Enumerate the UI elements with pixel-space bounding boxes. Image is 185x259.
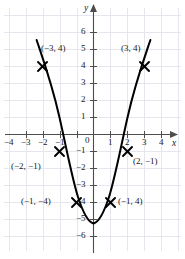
point-label-1-neg4: (−1, 4) bbox=[118, 197, 143, 206]
y-tick-label-5: 5 bbox=[81, 44, 86, 53]
point-label-neg2-neg1: (−2, −1) bbox=[11, 162, 41, 171]
y-tick-label-4: 4 bbox=[81, 61, 86, 70]
x-tick-label-1: 1 bbox=[108, 138, 113, 147]
point-label-2-neg1: (2, −1) bbox=[133, 157, 158, 166]
x-tick-label--4: −4 bbox=[4, 138, 14, 147]
parabola-graph-figure: −4 −3 −2 −1 0 1 2 3 4 6 5 4 3 2 1 −1 −2 … bbox=[0, 0, 185, 259]
y-tick-label--1: −1 bbox=[76, 146, 86, 155]
y-tick-label-1: 1 bbox=[81, 112, 86, 121]
x-axis-label: x bbox=[172, 139, 176, 149]
point-label-neg3-4: (−3, 4) bbox=[41, 44, 66, 53]
point-label-3-4: (3, 4) bbox=[121, 44, 141, 53]
y-tick-label--2: −2 bbox=[76, 163, 86, 172]
x-tick-label--3: −3 bbox=[21, 138, 31, 147]
y-tick-label--5: −5 bbox=[76, 214, 86, 223]
y-tick-label-3: 3 bbox=[81, 78, 86, 87]
x-tick-label-0: 0 bbox=[85, 136, 90, 145]
point-label-neg1-neg4: (−1, −4) bbox=[21, 197, 51, 206]
y-tick-label--6: −6 bbox=[76, 231, 86, 240]
y-axis-label: y bbox=[84, 4, 88, 14]
y-tick-label-6: 6 bbox=[81, 27, 86, 36]
y-tick-label-2: 2 bbox=[81, 95, 86, 104]
y-axis bbox=[90, 4, 97, 253]
x-tick-label--2: −2 bbox=[38, 138, 48, 147]
x-tick-label-3: 3 bbox=[142, 138, 147, 147]
x-tick-label--1: −1 bbox=[55, 138, 65, 147]
x-tick-label-4: 4 bbox=[159, 138, 164, 147]
coordinate-plane-svg bbox=[0, 0, 185, 259]
y-tick-label--4: −4 bbox=[76, 197, 86, 206]
y-tick-label--3: −3 bbox=[76, 180, 86, 189]
x-tick-label-2: 2 bbox=[125, 138, 130, 147]
